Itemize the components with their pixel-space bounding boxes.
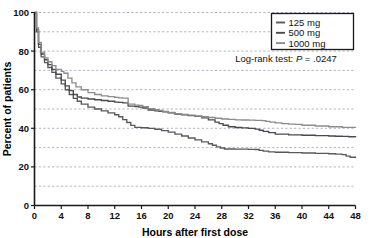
y-axis-ticks: 020406080100 bbox=[13, 7, 34, 211]
x-tick-label: 8 bbox=[85, 210, 90, 221]
x-tick-label: 20 bbox=[163, 210, 174, 221]
x-tick-label: 36 bbox=[270, 210, 281, 221]
survival-curve-figure: 02040608010004812162024283236404448Hours… bbox=[0, 0, 371, 238]
x-tick-label: 44 bbox=[323, 210, 334, 221]
x-tick-label: 12 bbox=[109, 210, 120, 221]
log-rank-annotation: Log-rank test: P = .0247 bbox=[235, 53, 337, 64]
x-tick-label: 24 bbox=[190, 210, 201, 221]
legend-label-1000-mg: 1000 mg bbox=[289, 38, 326, 49]
x-axis-ticks: 04812162024283236404448 bbox=[32, 206, 361, 222]
x-tick-label: 40 bbox=[297, 210, 308, 221]
x-axis-title: Hours after first dose bbox=[142, 226, 248, 238]
x-tick-label: 4 bbox=[59, 210, 65, 221]
y-tick-label: 0 bbox=[24, 200, 29, 211]
x-tick-label: 0 bbox=[32, 210, 37, 221]
x-tick-label: 48 bbox=[350, 210, 361, 221]
y-tick-label: 40 bbox=[18, 123, 29, 134]
y-tick-label: 100 bbox=[13, 7, 29, 18]
x-tick-label: 16 bbox=[136, 210, 147, 221]
y-axis-title: Percent of patients bbox=[1, 62, 13, 157]
legend: 125 mg500 mg1000 mg bbox=[272, 14, 354, 50]
y-tick-label: 80 bbox=[18, 46, 29, 57]
chart-canvas: 02040608010004812162024283236404448Hours… bbox=[0, 0, 371, 238]
x-tick-label: 32 bbox=[243, 210, 254, 221]
x-tick-label: 28 bbox=[216, 210, 227, 221]
y-tick-label: 20 bbox=[18, 161, 29, 172]
y-tick-label: 60 bbox=[18, 84, 29, 95]
